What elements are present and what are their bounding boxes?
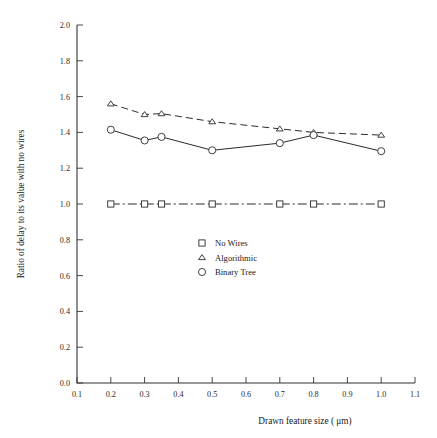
data-point-marker <box>158 133 165 140</box>
series-no-wires <box>108 201 385 207</box>
chart-figure: 0.10.20.30.40.50.60.70.80.91.01.1 0.00.2… <box>0 0 437 438</box>
axes <box>77 25 415 383</box>
x-tick-label: 1.0 <box>376 390 386 399</box>
y-tick-label: 0.0 <box>60 379 70 388</box>
data-point-marker <box>209 147 216 154</box>
chart-legend: No WiresAlgorithmicBinary Tree <box>198 238 257 277</box>
x-axis-title: Drawn feature size ( μm) <box>258 416 351 427</box>
data-point-marker <box>107 126 114 133</box>
data-point-marker <box>141 137 148 144</box>
legend-item-label: No Wires <box>215 238 248 248</box>
data-point-marker <box>198 268 205 275</box>
x-tick-label: 1.1 <box>410 390 420 399</box>
x-tick-label: 0.4 <box>173 390 183 399</box>
series-binary-tree <box>107 126 385 155</box>
y-tick-label: 0.6 <box>60 272 70 281</box>
data-point-marker <box>276 140 283 147</box>
data-point-marker <box>158 201 164 207</box>
y-tick-label: 1.0 <box>60 200 70 209</box>
y-tick-label: 1.4 <box>60 128 70 137</box>
data-point-marker <box>142 201 148 207</box>
series-algorithmic <box>107 101 384 137</box>
legend-item-label: Binary Tree <box>215 267 256 277</box>
x-tick-label: 0.2 <box>106 390 116 399</box>
y-tick-label: 0.4 <box>60 307 70 316</box>
data-point-marker <box>158 111 165 116</box>
data-point-marker <box>107 101 114 106</box>
data-point-marker <box>378 201 384 207</box>
data-point-marker <box>310 132 317 139</box>
y-tick-label: 1.6 <box>60 93 70 102</box>
legend-item-label: Algorithmic <box>215 253 257 263</box>
y-tick-label: 0.2 <box>60 343 70 352</box>
data-point-marker <box>209 201 215 207</box>
legend-item-binary-tree[interactable]: Binary Tree <box>198 267 256 277</box>
legend-item-no-wires[interactable]: No Wires <box>199 238 248 248</box>
series-line <box>111 104 381 135</box>
y-tick-label: 2.0 <box>60 21 70 30</box>
x-tick-label: 0.7 <box>275 390 285 399</box>
y-tick-label: 1.2 <box>60 164 70 173</box>
x-tick-label: 0.5 <box>207 390 217 399</box>
data-point-marker <box>277 201 283 207</box>
data-point-marker <box>199 255 206 260</box>
legend-item-algorithmic[interactable]: Algorithmic <box>199 253 258 263</box>
y-tick-label: 0.8 <box>60 236 70 245</box>
data-point-marker <box>108 201 114 207</box>
data-point-marker <box>311 201 317 207</box>
x-axis-ticks: 0.10.20.30.40.50.60.70.80.91.01.1 <box>72 377 420 399</box>
data-point-marker <box>378 148 385 155</box>
data-point-marker <box>199 240 205 246</box>
x-tick-label: 0.1 <box>72 390 82 399</box>
x-tick-label: 0.6 <box>241 390 251 399</box>
x-tick-label: 0.8 <box>308 390 318 399</box>
y-axis-ticks: 0.00.20.40.60.81.01.21.41.61.82.0 <box>60 21 83 388</box>
y-axis-title: Ratio of delay to its value with no wire… <box>16 129 26 278</box>
y-tick-label: 1.8 <box>60 57 70 66</box>
x-tick-label: 0.9 <box>342 390 352 399</box>
x-tick-label: 0.3 <box>139 390 149 399</box>
series-line <box>111 130 381 151</box>
data-series <box>107 101 385 207</box>
line-chart: 0.10.20.30.40.50.60.70.80.91.01.1 0.00.2… <box>0 0 437 438</box>
